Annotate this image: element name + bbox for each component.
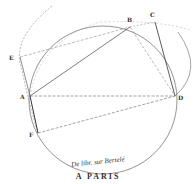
label-F: F bbox=[29, 131, 34, 138]
line-BD bbox=[130, 27, 175, 96]
right-arc bbox=[175, 32, 191, 96]
label-B: B bbox=[127, 16, 132, 23]
label-A: A bbox=[19, 93, 25, 100]
line-AB bbox=[30, 27, 130, 96]
line-CD bbox=[155, 22, 175, 96]
line-FD bbox=[38, 96, 175, 133]
line-AE bbox=[20, 57, 30, 96]
label-E: E bbox=[9, 54, 14, 61]
secondary-arc bbox=[30, 22, 190, 96]
label-C: C bbox=[150, 11, 155, 18]
label-D: D bbox=[178, 94, 183, 101]
place-caption: A PARIS bbox=[0, 172, 196, 181]
line-BC bbox=[130, 22, 155, 27]
